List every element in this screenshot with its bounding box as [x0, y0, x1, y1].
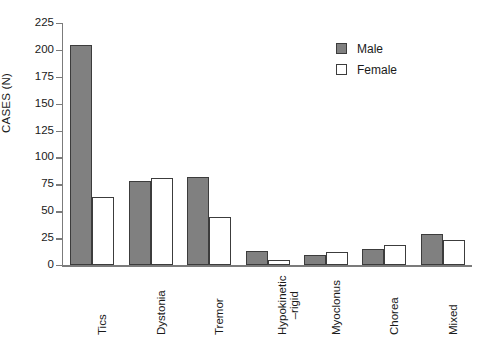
- y-tick-mark: [56, 184, 62, 185]
- x-axis-label: Myoclonus: [330, 280, 342, 335]
- y-axis-title: CASES (N): [0, 58, 12, 148]
- y-tick-label: 175: [24, 71, 54, 83]
- y-tick-label: 50: [24, 205, 54, 217]
- y-tick-label: 0: [24, 259, 54, 271]
- y-tick-mark: [56, 157, 62, 158]
- bar-female: [92, 197, 114, 265]
- y-axis-tick-labels: 2252001751501251007550250: [24, 0, 54, 338]
- x-axis-label: Tics: [96, 314, 108, 335]
- x-axis-label: Chorea: [388, 297, 400, 335]
- legend-label: Female: [357, 63, 397, 77]
- legend-item-male[interactable]: Male: [336, 38, 456, 59]
- y-tick-label: 150: [24, 98, 54, 110]
- bar-female: [268, 260, 290, 265]
- bar-male: [362, 249, 384, 265]
- y-tick-mark: [56, 50, 62, 51]
- open-white-square-icon: [336, 64, 347, 75]
- y-tick-mark: [56, 23, 62, 24]
- y-tick-mark: [56, 104, 62, 105]
- x-axis-label: Dystonia: [155, 290, 167, 335]
- bar-group: [129, 23, 173, 265]
- y-tick-mark: [56, 265, 62, 266]
- y-tick-label: 75: [24, 178, 54, 190]
- bar-group: [70, 23, 114, 265]
- bar-female: [443, 240, 465, 265]
- bar-male: [421, 234, 443, 265]
- bar-female: [384, 245, 406, 265]
- bar-male: [129, 181, 151, 265]
- bar-female: [326, 252, 348, 265]
- bar-male: [70, 45, 92, 265]
- y-tick-label: 25: [24, 232, 54, 244]
- x-axis-label: Hypokinetic–rigid: [276, 276, 300, 335]
- y-tick-label: 225: [24, 17, 54, 29]
- bar-male: [187, 177, 209, 265]
- y-tick-mark: [56, 131, 62, 132]
- chart-legend: MaleFemale: [336, 38, 456, 80]
- legend-label: Male: [357, 42, 383, 56]
- bar-female: [209, 217, 231, 265]
- bar-female: [151, 178, 173, 265]
- legend-item-female[interactable]: Female: [336, 59, 456, 80]
- bar-male: [246, 251, 268, 265]
- x-axis-label: Mixed: [447, 304, 459, 335]
- filled-gray-square-icon: [336, 43, 347, 54]
- x-axis-category-labels: TicsDystoniaTremorHypokinetic–rigidMyocl…: [63, 267, 472, 338]
- y-tick-label: 125: [24, 125, 54, 137]
- y-tick-mark: [56, 238, 62, 239]
- bar-group: [187, 23, 231, 265]
- y-tick-mark: [56, 211, 62, 212]
- y-tick-mark: [56, 77, 62, 78]
- bar-male: [304, 255, 326, 265]
- bar-chart: CASES (N) 2252001751501251007550250 Tics…: [0, 0, 500, 338]
- bar-group: [246, 23, 290, 265]
- x-axis-label: Tremor: [213, 298, 225, 335]
- y-tick-label: 100: [24, 151, 54, 163]
- y-tick-label: 200: [24, 44, 54, 56]
